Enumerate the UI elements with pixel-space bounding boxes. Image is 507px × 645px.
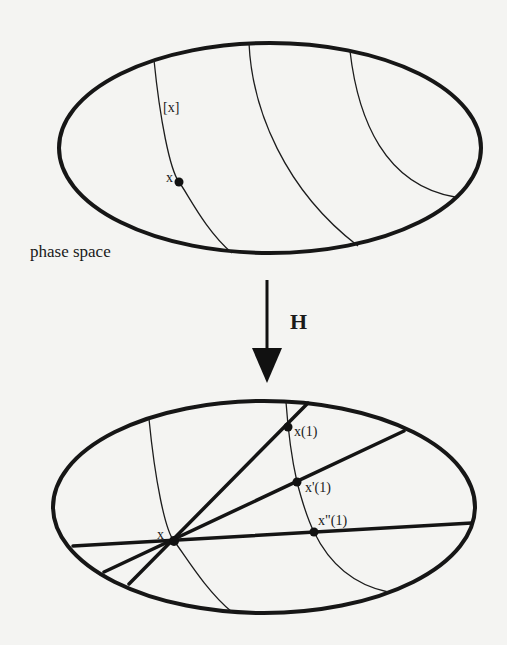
fiber-curve-1: [154, 60, 232, 253]
map-label: H: [290, 309, 307, 334]
bottom-phase-space: x x(1) x'(1) x"(1): [53, 401, 475, 613]
trajectory-line-1: [129, 403, 308, 584]
x1-double-prime-label: x"(1): [318, 513, 347, 529]
trajectory-line-3: [73, 523, 472, 546]
point-x-label-bottom: x: [157, 527, 164, 542]
top-phase-space: [x] x phase space: [30, 43, 481, 261]
point-x-label: x: [166, 170, 173, 185]
phase-space-diagram: [x] x phase space H x x(1) x'(1) x"(1): [0, 0, 507, 645]
bottom-ellipse: [53, 401, 475, 613]
fiber-curve-3: [350, 51, 455, 197]
map-arrow: H: [252, 280, 307, 383]
point-x-dot-bottom: [169, 536, 179, 546]
fiber-label: [x]: [163, 100, 179, 115]
fiber-curve-left: [149, 419, 232, 612]
point-x-dot: [175, 178, 184, 187]
top-ellipse: [59, 43, 481, 253]
fiber-curve-2: [249, 43, 358, 246]
x1-prime-label: x'(1): [305, 480, 331, 496]
phase-space-caption: phase space: [30, 242, 111, 261]
x1-label: x(1): [294, 424, 318, 440]
arrow-down-icon: [252, 348, 282, 383]
point-x1-dot: [284, 423, 293, 432]
point-x1-prime-dot: [293, 478, 302, 487]
point-x1-double-prime-dot: [310, 528, 319, 537]
trajectory-line-2: [104, 431, 404, 572]
